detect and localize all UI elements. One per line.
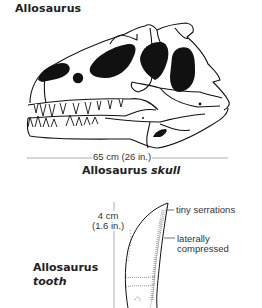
tooth-caption: Allosaurus tooth [33,261,98,289]
infratemporal-fenestra [170,47,195,92]
annotation-laterally-compressed: laterally compressed [177,234,229,254]
tooth-caption-part: tooth [33,275,98,289]
tooth-drawing [125,203,168,308]
tooth-caption-name: Allosaurus [33,261,98,275]
antorbital-fenestra [90,44,136,78]
upper-teeth [34,99,123,117]
skull-scale-label: 65 cm (26 in.) [92,151,152,162]
annotation-tiny-serrations: tiny serrations [176,205,235,215]
skull-caption: Allosaurus skull [82,164,180,177]
skull-openings [38,42,201,137]
skull-caption-name: Allosaurus [82,164,147,177]
skull-caption-part: skull [151,164,180,177]
skull-drawing [27,23,229,148]
tooth-height-label: 4 cm (1.6 in.) [92,211,124,231]
mandibular-fenestra [153,129,167,137]
small-foramen [73,73,83,83]
naris-opening [38,63,70,82]
lower-teeth [28,115,98,127]
orbit-opening [140,42,168,80]
